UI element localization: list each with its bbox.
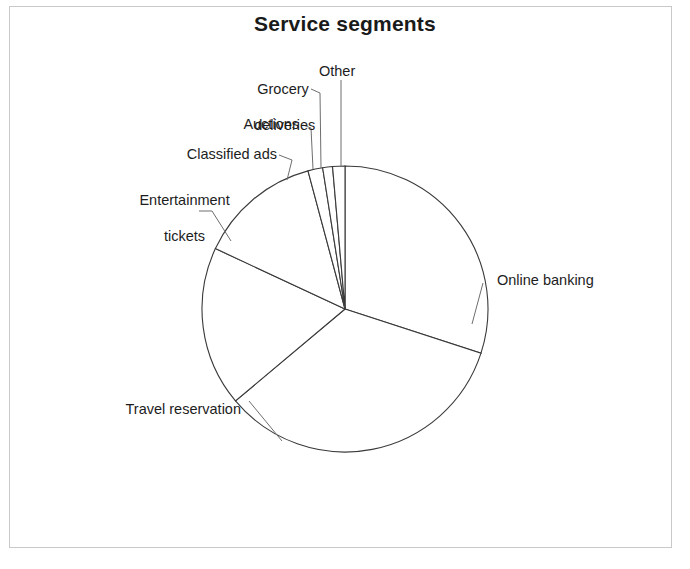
pie-label-grocery-deliveries-line2: deliveries	[254, 117, 315, 133]
pie-label-entertainment-tickets: Entertainment tickets	[115, 173, 238, 264]
pie-label-travel-reservation: Travel reservation	[56, 400, 241, 418]
leader-line-classified-ads	[279, 155, 292, 180]
pie-label-online-banking: Online banking	[497, 271, 594, 289]
pie-label-entertainment-tickets-line2: tickets	[164, 228, 205, 244]
pie-label-entertainment-tickets-line1: Entertainment	[139, 192, 229, 208]
pie-label-other: Other	[319, 62, 355, 80]
chart-page: Service segments Online banking Travel r…	[0, 0, 690, 569]
pie-label-grocery-deliveries: Grocery deliveries	[238, 62, 312, 153]
pie-label-grocery-deliveries-line1: Grocery	[257, 81, 309, 97]
